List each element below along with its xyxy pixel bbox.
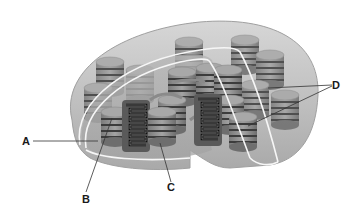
thylakoid-stack-cut-1	[122, 100, 150, 152]
label-c: C	[167, 182, 175, 193]
granum-c	[148, 107, 176, 147]
thylakoid-stack-cut-2	[194, 94, 222, 146]
label-b: B	[82, 194, 90, 205]
label-d: D	[332, 80, 340, 91]
chloroplast-diagram	[0, 0, 360, 216]
granum-right	[229, 112, 257, 152]
label-a: A	[22, 136, 30, 147]
